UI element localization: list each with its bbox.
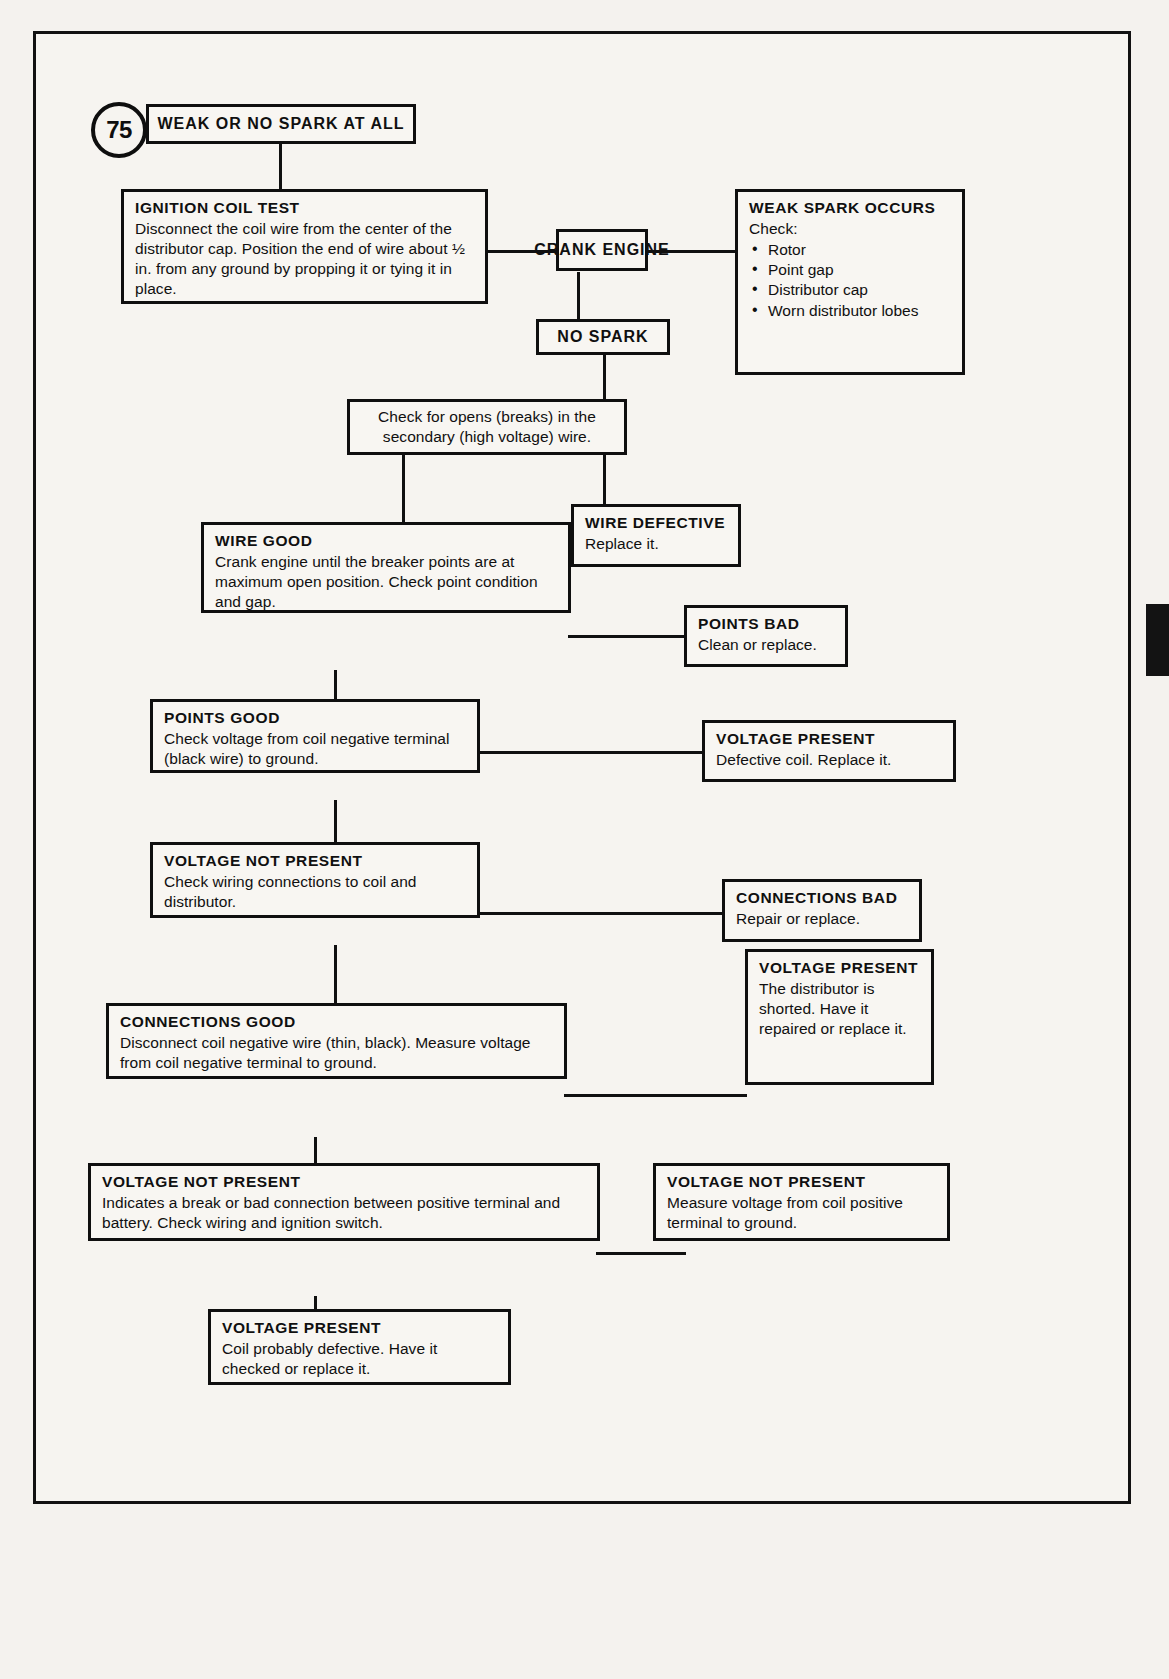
node-voltage-not-present-measure-positive-terminal[interactable]: VOLTAGE NOT PRESENT Measure voltage from… [653,1163,950,1241]
node-title: POINTS GOOD [164,709,466,728]
connector-crank-to-no-spark [577,272,580,320]
node-points-good[interactable]: POINTS GOOD Check voltage from coil nega… [150,699,480,773]
connector-check-opens-to-wire-good [402,453,405,524]
node-wire-good[interactable]: WIRE GOOD Crank engine until the breaker… [201,522,571,613]
node-crank-engine[interactable]: CRANK ENGINE [556,229,648,271]
node-title: CONNECTIONS GOOD [120,1013,553,1032]
node-body: Check for opens (breaks) in the secondar… [360,407,614,447]
connector-check-opens-to-wire-defective [603,453,606,506]
node-body: Measure voltage from coil positive termi… [667,1193,936,1233]
node-voltage-not-present-check-wiring[interactable]: VOLTAGE NOT PRESENT Check wiring connect… [150,842,480,918]
node-connections-good[interactable]: CONNECTIONS GOOD Disconnect coil negativ… [106,1003,567,1079]
node-body: Crank engine until the breaker points ar… [215,552,557,612]
connector-points-good-to-voltage-not-present [334,800,337,845]
node-weak-or-no-spark-at-all[interactable]: WEAK OR NO SPARK AT ALL [146,104,416,144]
node-no-spark[interactable]: NO SPARK [536,319,670,355]
node-voltage-present-distributor-shorted[interactable]: VOLTAGE PRESENT The distributor is short… [745,949,934,1085]
node-points-bad[interactable]: POINTS BAD Clean or replace. [684,605,848,667]
node-voltage-present-defective-coil[interactable]: VOLTAGE PRESENT Defective coil. Replace … [702,720,956,782]
node-title: VOLTAGE NOT PRESENT [667,1173,936,1192]
connector-connections-good-to-voltage-present2 [564,1094,747,1097]
connector-points-good-to-voltage-present [477,751,704,754]
node-title: POINTS BAD [698,615,834,634]
connector-start-to-coil-test [279,141,282,189]
node-title: CONNECTIONS BAD [736,889,908,908]
node-body: Repair or replace. [736,909,908,929]
node-body: Defective coil. Replace it. [716,750,942,770]
node-body: Coil probably defective. Have it checked… [222,1339,497,1379]
node-body: Indicates a break or bad connection betw… [102,1193,586,1233]
connector-voltage-not-present-to-connections-bad [477,912,724,915]
connector-voltage-not-present2-to-voltage-not-present3 [596,1252,686,1255]
page-frame: 75 WEAK OR NO SPARK AT ALL IGNITION COIL… [33,31,1131,1504]
node-voltage-not-present-break-or-bad-connection[interactable]: VOLTAGE NOT PRESENT Indicates a break or… [88,1163,600,1241]
page-number-label: 75 [106,116,132,144]
node-title: VOLTAGE PRESENT [759,959,920,978]
connector-no-spark-to-check-opens [603,352,606,401]
node-body: Clean or replace. [698,635,834,655]
node-title: VOLTAGE NOT PRESENT [102,1173,586,1192]
node-title: WEAK SPARK OCCURS [749,199,951,218]
node-weak-spark-occurs[interactable]: WEAK SPARK OCCURS Check: Rotor Point gap… [735,189,965,375]
page-edge-tab-marker [1146,604,1169,676]
node-body: Replace it. [585,534,727,554]
node-wire-defective[interactable]: WIRE DEFECTIVE Replace it. [571,504,741,567]
weak-spark-check-list: Rotor Point gap Distributor cap Worn dis… [749,240,951,321]
node-body: Check wiring connections to coil and dis… [164,872,466,912]
connector-voltage-not-present-to-connections-good [334,945,337,1006]
node-body: The distributor is shorted. Have it repa… [759,979,920,1039]
node-body: Disconnect coil negative wire (thin, bla… [120,1033,553,1073]
node-body: Disconnect the coil wire from the center… [135,219,474,299]
node-title: VOLTAGE NOT PRESENT [164,852,466,871]
connector-wire-good-to-points-good [334,670,337,702]
node-title: NO SPARK [557,327,648,347]
node-title: CRANK ENGINE [534,240,670,260]
node-title: WEAK OR NO SPARK AT ALL [158,114,405,134]
node-voltage-present-coil-probably-defective[interactable]: VOLTAGE PRESENT Coil probably defective.… [208,1309,511,1385]
list-item: Point gap [749,260,951,280]
node-body: Check voltage from coil negative termina… [164,729,466,769]
node-connections-bad[interactable]: CONNECTIONS BAD Repair or replace. [722,879,922,942]
node-check-for-opens[interactable]: Check for opens (breaks) in the secondar… [347,399,627,455]
node-title: WIRE DEFECTIVE [585,514,727,533]
list-item: Worn distributor lobes [749,301,951,321]
node-title: VOLTAGE PRESENT [222,1319,497,1338]
node-title: IGNITION COIL TEST [135,199,474,218]
page-number-badge: 75 [91,102,147,158]
node-title: VOLTAGE PRESENT [716,730,942,749]
node-title: WIRE GOOD [215,532,557,551]
list-item: Rotor [749,240,951,260]
node-ignition-coil-test[interactable]: IGNITION COIL TEST Disconnect the coil w… [121,189,488,304]
list-item: Distributor cap [749,280,951,300]
node-body: Check: [749,219,951,239]
